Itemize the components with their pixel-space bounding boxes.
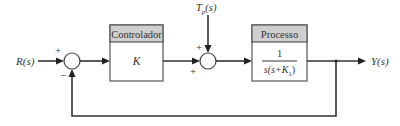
sum2-top-plus-sign: + — [196, 41, 202, 53]
summing-junction-1 — [64, 53, 80, 69]
summing-junction-2 — [200, 53, 216, 69]
controller-gain: K — [132, 55, 142, 67]
process-block: Processo 1 s(s+K1) — [252, 25, 307, 81]
output-label: Y(s) — [371, 55, 389, 68]
process-numerator: 1 — [277, 48, 282, 59]
block-diagram: R(s) + − Controlador K Tp(s) + + Process… — [0, 0, 400, 126]
process-header-label: Processo — [261, 29, 298, 40]
disturbance-label: Tp(s) — [196, 2, 217, 16]
disturbance-arrowhead-icon — [205, 45, 212, 53]
controller-input-arrowhead-icon — [102, 58, 110, 65]
sum2-left-arrowhead-icon — [192, 58, 200, 65]
controller-header-label: Controlador — [111, 29, 162, 40]
sum2-left-plus-sign: + — [190, 65, 196, 77]
sum1-minus-sign: − — [60, 69, 66, 81]
feedback-arrowhead-icon — [69, 69, 76, 77]
input-arrowhead-icon — [56, 58, 64, 65]
input-label: R(s) — [15, 55, 35, 68]
sum1-plus-sign: + — [55, 44, 61, 56]
output-arrowhead-icon — [358, 58, 366, 65]
controller-block: Controlador K — [110, 25, 163, 81]
process-input-arrowhead-icon — [244, 58, 252, 65]
